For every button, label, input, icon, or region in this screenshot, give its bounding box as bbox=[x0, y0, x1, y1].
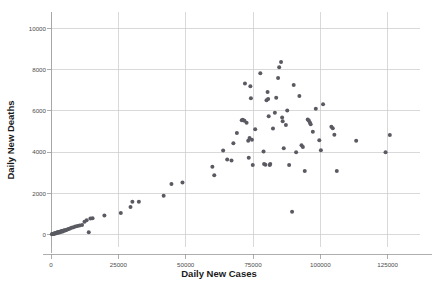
data-point bbox=[311, 130, 315, 134]
data-point bbox=[230, 159, 234, 163]
data-point bbox=[331, 126, 335, 130]
data-point bbox=[249, 96, 253, 100]
y-tick-label: 2000 bbox=[32, 190, 46, 197]
data-point bbox=[225, 158, 229, 162]
data-point bbox=[321, 102, 325, 106]
data-point bbox=[297, 94, 301, 98]
data-point bbox=[388, 133, 392, 137]
data-point bbox=[251, 163, 255, 167]
x-tick-label: 0 bbox=[49, 261, 53, 268]
data-point bbox=[274, 96, 278, 100]
y-axis-title: Daily New Deaths bbox=[5, 100, 16, 179]
data-point bbox=[287, 163, 291, 167]
data-point bbox=[277, 65, 281, 69]
data-point bbox=[273, 111, 277, 115]
data-point bbox=[102, 213, 106, 217]
data-point bbox=[263, 163, 267, 167]
y-tick-label: 8000 bbox=[32, 66, 46, 73]
data-point bbox=[285, 108, 289, 112]
axis-layer bbox=[43, 12, 432, 259]
data-point bbox=[284, 123, 288, 127]
data-point bbox=[221, 148, 225, 152]
data-point bbox=[335, 169, 339, 173]
data-point bbox=[281, 119, 285, 123]
data-point bbox=[231, 141, 235, 145]
data-point bbox=[250, 138, 254, 142]
data-point bbox=[314, 107, 318, 111]
y-tick-label: 0 bbox=[43, 231, 47, 238]
data-point bbox=[85, 218, 89, 222]
data-point bbox=[262, 150, 266, 154]
data-point bbox=[87, 230, 91, 234]
data-point bbox=[162, 194, 166, 198]
data-point bbox=[309, 122, 313, 126]
data-point bbox=[245, 121, 249, 125]
data-point bbox=[266, 97, 270, 101]
data-point bbox=[282, 146, 286, 150]
y-tick-label: 10000 bbox=[29, 25, 47, 32]
data-point bbox=[210, 165, 214, 169]
data-point bbox=[253, 127, 257, 131]
data-point bbox=[119, 211, 123, 215]
data-point bbox=[180, 180, 184, 184]
x-tick-label: 50000 bbox=[177, 261, 195, 268]
x-tick-label: 75000 bbox=[244, 261, 262, 268]
y-tick-label: 6000 bbox=[32, 107, 46, 114]
data-point bbox=[235, 131, 239, 135]
data-points-layer bbox=[50, 60, 392, 236]
data-point bbox=[130, 200, 134, 204]
data-point bbox=[280, 115, 284, 119]
data-point bbox=[248, 84, 252, 88]
data-point bbox=[258, 71, 262, 75]
data-point bbox=[91, 216, 95, 220]
y-tick-label: 4000 bbox=[32, 148, 46, 155]
data-point bbox=[276, 76, 280, 80]
data-point bbox=[266, 90, 270, 94]
data-point bbox=[279, 60, 283, 64]
data-point bbox=[303, 169, 307, 173]
data-point bbox=[354, 139, 358, 143]
data-point bbox=[292, 83, 296, 87]
data-point bbox=[267, 114, 271, 118]
data-point bbox=[247, 156, 251, 160]
tick-labels-layer: 0200040006000800010000025000500007500010… bbox=[29, 25, 399, 268]
data-point bbox=[129, 205, 133, 209]
data-point bbox=[169, 182, 173, 186]
data-point bbox=[332, 133, 336, 137]
data-point bbox=[268, 162, 272, 166]
x-tick-label: 25000 bbox=[110, 261, 128, 268]
data-point bbox=[319, 148, 323, 152]
data-point bbox=[290, 210, 294, 214]
data-point bbox=[271, 127, 275, 131]
data-point bbox=[317, 138, 321, 142]
data-point bbox=[243, 81, 247, 85]
x-tick-label: 125000 bbox=[377, 261, 398, 268]
data-point bbox=[384, 150, 388, 154]
data-point bbox=[137, 200, 141, 204]
data-point bbox=[294, 150, 298, 154]
x-axis-title: Daily New Cases bbox=[181, 268, 257, 279]
x-tick-label: 100000 bbox=[310, 261, 331, 268]
data-point bbox=[301, 145, 305, 149]
grid-layer bbox=[51, 12, 420, 247]
scatter-plot-figure: 0200040006000800010000025000500007500010… bbox=[0, 0, 439, 289]
data-point bbox=[212, 173, 216, 177]
chart-canvas: 0200040006000800010000025000500007500010… bbox=[0, 0, 439, 289]
